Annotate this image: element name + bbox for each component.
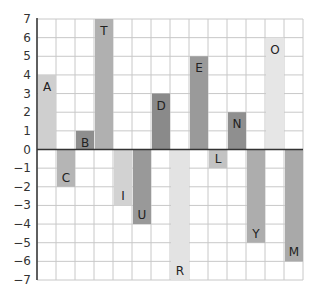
y-tick-label: 6 bbox=[23, 31, 31, 45]
bar-label: T bbox=[99, 24, 108, 38]
bar-label: A bbox=[43, 80, 52, 94]
y-tick-label: −7 bbox=[13, 273, 31, 287]
y-axis-tick-labels: 76543210−1−2−3−4−5−6−7 bbox=[13, 12, 31, 287]
y-tick-label: 7 bbox=[23, 12, 31, 26]
y-tick-label: 4 bbox=[23, 68, 31, 82]
bar-label: I bbox=[121, 189, 125, 203]
y-tick-label: −2 bbox=[13, 180, 31, 194]
bar-label: N bbox=[233, 117, 242, 131]
y-tick-label: 1 bbox=[23, 124, 31, 138]
bar-label: L bbox=[215, 152, 222, 166]
y-tick-label: −1 bbox=[13, 161, 31, 175]
y-tick-label: 5 bbox=[23, 49, 31, 63]
bar-label: M bbox=[289, 245, 299, 259]
bar-label: Y bbox=[251, 227, 260, 241]
bar-label: U bbox=[138, 208, 147, 222]
bar-label: R bbox=[176, 264, 184, 278]
y-tick-label: 3 bbox=[23, 87, 31, 101]
y-tick-label: 2 bbox=[23, 105, 31, 119]
bar-chart: ACBTIUDRELNYOM 76543210−1−2−3−4−5−6−7 bbox=[0, 0, 320, 300]
y-tick-label: 0 bbox=[23, 143, 31, 157]
y-tick-label: −3 bbox=[13, 198, 31, 212]
bar-label: B bbox=[81, 136, 89, 150]
y-tick-label: −6 bbox=[13, 254, 31, 268]
bar-label: O bbox=[270, 43, 279, 57]
bar-label: E bbox=[195, 61, 203, 75]
bar-label: C bbox=[62, 171, 70, 185]
bar-t bbox=[95, 19, 113, 150]
bar-label: D bbox=[156, 99, 165, 113]
y-tick-label: −5 bbox=[13, 236, 31, 250]
y-tick-label: −4 bbox=[13, 217, 31, 231]
bar-r bbox=[171, 150, 189, 281]
